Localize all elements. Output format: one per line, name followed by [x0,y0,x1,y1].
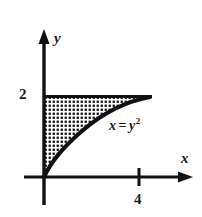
curve-equation-label: x=y2 [109,119,141,133]
x-tick-label-4: 4 [134,192,142,207]
equation-rhs-base: y [129,118,136,133]
equation-lhs: x [109,118,117,133]
y-tick-label-2: 2 [19,87,27,102]
equation-rhs-exponent: 2 [136,116,141,126]
plot-canvas [0,0,202,217]
equation-operator: = [119,118,127,133]
y-axis-label: y [54,31,61,46]
math-figure: y x 2 4 x=y2 [0,0,202,217]
x-axis [24,172,193,183]
x-axis-label: x [181,151,189,166]
shaded-region [44,97,150,177]
